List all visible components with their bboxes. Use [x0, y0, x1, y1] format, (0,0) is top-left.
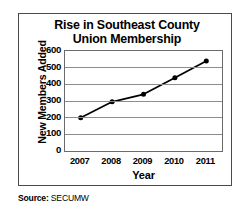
source-value: SECUMW [51, 193, 89, 203]
gridline [65, 134, 222, 135]
gridline [65, 101, 222, 102]
data-point-marker: 2010: 440 [172, 75, 177, 80]
y-axis-tick-label: 0 [33, 145, 61, 155]
y-axis-tick-label: 200 [33, 112, 61, 122]
chart-figure: Rise in Southeast County Union Membershi… [0, 0, 244, 214]
gridline [65, 67, 222, 68]
gridline [65, 117, 222, 118]
plot-area: 2007: 2002008: 2952009: 3402010: 4402011… [64, 50, 223, 152]
y-axis-tick-label: 600 [33, 45, 61, 55]
chart-title-line-1: Rise in Southeast County [39, 19, 215, 33]
y-axis-tick-label: 100 [33, 128, 61, 138]
y-axis-tick-labels: 0100200300400500600 [33, 50, 61, 150]
y-axis-tick-label: 500 [33, 62, 61, 72]
source-label: Source: [18, 193, 49, 203]
chart-title-line-2: Union Membership [39, 33, 215, 47]
chart-title: Rise in Southeast County Union Membershi… [39, 19, 215, 46]
x-axis-tick-label: 2011 [185, 156, 225, 166]
y-axis-tick-label: 300 [33, 95, 61, 105]
x-axis-title: Year [64, 169, 223, 181]
gridline [65, 84, 222, 85]
source-note: Source: SECUMW [18, 193, 89, 203]
series-line [81, 61, 207, 118]
x-axis-tick-labels: 20072008200920102011 [64, 156, 223, 170]
y-axis-tick-label: 400 [33, 78, 61, 88]
data-point-marker: 2009: 340 [141, 92, 146, 97]
chart-frame: Rise in Southeast County Union Membershi… [18, 13, 232, 186]
data-point-marker: 2011: 540 [204, 59, 209, 64]
